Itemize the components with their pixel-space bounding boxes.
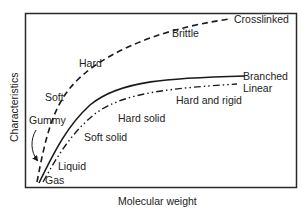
label-hard-and-rigid: Hard and rigid bbox=[176, 94, 242, 106]
label-linear: Linear bbox=[243, 82, 273, 94]
label-hard-solid: Hard solid bbox=[118, 112, 165, 124]
label-brittle: Brittle bbox=[172, 27, 199, 39]
label-liquid: Liquid bbox=[58, 160, 86, 172]
label-soft-solid: Soft solid bbox=[84, 131, 127, 143]
label-gas: Gas bbox=[45, 174, 64, 186]
gummy-arrow bbox=[32, 130, 37, 160]
label-branched: Branched bbox=[243, 70, 288, 82]
label-gummy: Gummy bbox=[29, 114, 67, 126]
label-crosslinked: Crosslinked bbox=[234, 13, 289, 25]
label-soft: Soft bbox=[45, 91, 64, 103]
polymer-diagram: Crosslinked Branched Linear Brittle Hard… bbox=[0, 0, 306, 210]
x-axis-label: Molecular weight bbox=[118, 195, 197, 207]
y-axis-label: Characteristics bbox=[8, 73, 20, 142]
label-hard: Hard bbox=[79, 57, 102, 69]
